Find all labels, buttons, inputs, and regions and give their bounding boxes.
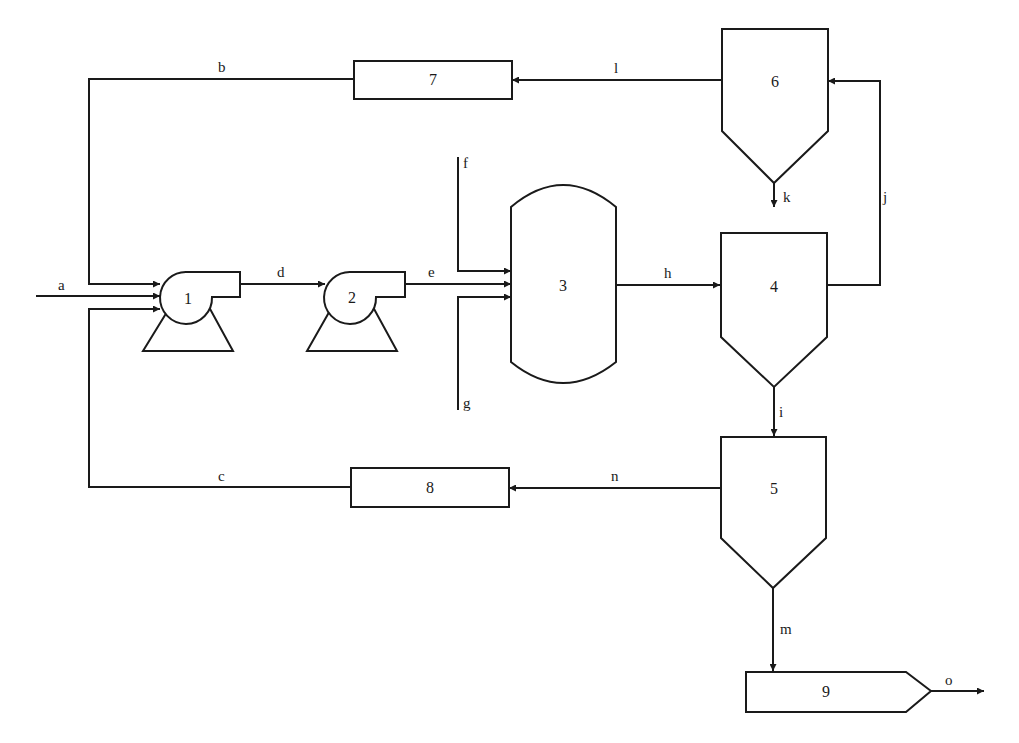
unit-5-settler: 5 [721,437,826,588]
stream-b: b [89,59,354,284]
stream-o: o [931,672,984,691]
unit-label-2: 2 [348,289,356,306]
unit-4-settler: 4 [721,233,827,387]
unit-label-9: 9 [822,683,830,700]
unit-3-vessel: 3 [511,185,616,383]
stream-label-k: k [783,189,791,205]
stream-k: k [774,183,791,207]
unit-label-5: 5 [770,480,778,497]
unit-label-6: 6 [771,73,779,90]
stream-label-b: b [218,59,226,75]
process-flow-diagram: a b c d e f g h j l [0,0,1019,743]
stream-label-d: d [277,264,285,280]
unit-label-1: 1 [184,290,192,307]
unit-6-settler: 6 [722,29,828,183]
stream-i: i [774,387,783,436]
stream-m: m [773,588,792,671]
stream-h: h [616,265,720,285]
stream-label-m: m [780,621,792,637]
unit-label-3: 3 [559,277,567,294]
stream-l: l [512,60,721,80]
stream-f: f [458,155,511,271]
stream-label-g: g [463,395,471,411]
stream-label-a: a [58,277,65,293]
stream-label-n: n [611,468,619,484]
stream-label-e: e [428,264,435,280]
unit-7-box: 7 [354,61,512,99]
unit-9-product: 9 [746,672,931,712]
stream-label-f: f [463,155,468,171]
stream-label-i: i [779,404,783,420]
stream-g: g [458,297,511,411]
stream-j: j [827,81,887,285]
stream-label-l: l [614,60,618,76]
stream-a: a [36,277,160,296]
stream-label-j: j [882,189,887,205]
stream-label-c: c [218,468,225,484]
stream-n: n [509,468,720,488]
unit-8-box: 8 [351,468,509,507]
unit-label-8: 8 [426,479,434,496]
unit-label-7: 7 [429,71,437,88]
unit-label-4: 4 [770,278,778,295]
stream-label-o: o [945,672,953,688]
stream-d: d [240,264,325,284]
stream-label-h: h [664,265,672,281]
